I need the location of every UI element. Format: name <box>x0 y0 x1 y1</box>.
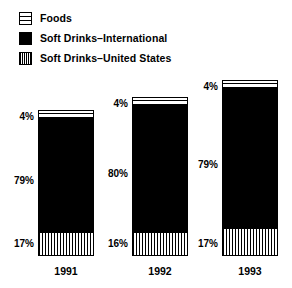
bar-1993-label-foods: 4% <box>194 82 218 92</box>
bar-1992-segment-soft-drinks-international <box>133 106 187 232</box>
bar-1991-label-soft-drinks-united-states: 17% <box>10 239 34 249</box>
bar-1992-label-soft-drinks-united-states: 16% <box>100 239 128 249</box>
bar-1991 <box>38 110 94 256</box>
bar-1992-segment-foods <box>133 98 187 106</box>
bar-1993-segment-soft-drinks-international <box>223 89 277 228</box>
stacked-bar-chart: Foods Soft Drinks–International Soft Dri… <box>0 0 292 288</box>
plot-area: 4% 79% 17% 1991 4% 80% 16% 1992 4% 79% 1… <box>0 0 292 288</box>
bar-1991-label-soft-drinks-international: 79% <box>10 176 34 186</box>
bar-1991-segment-foods <box>39 111 93 119</box>
bar-1993-segment-foods <box>223 81 277 89</box>
bar-1991-segment-soft-drinks-international <box>39 119 93 232</box>
bar-1991-segment-soft-drinks-united-states <box>39 232 93 255</box>
bar-1993 <box>222 80 278 256</box>
bar-1992-label-foods: 4% <box>104 99 128 109</box>
bar-1993-label-soft-drinks-international: 79% <box>190 160 218 170</box>
x-axis-label-1992: 1992 <box>132 266 188 277</box>
x-axis-label-1991: 1991 <box>38 266 94 277</box>
bar-1992 <box>132 97 188 256</box>
x-axis-label-1993: 1993 <box>222 266 278 277</box>
bar-1993-label-soft-drinks-united-states: 17% <box>190 239 218 249</box>
bar-1992-segment-soft-drinks-united-states <box>133 232 187 255</box>
bar-1992-label-soft-drinks-international: 80% <box>100 169 128 179</box>
bar-1991-label-foods: 4% <box>10 112 34 122</box>
bar-1993-segment-soft-drinks-united-states <box>223 228 277 255</box>
